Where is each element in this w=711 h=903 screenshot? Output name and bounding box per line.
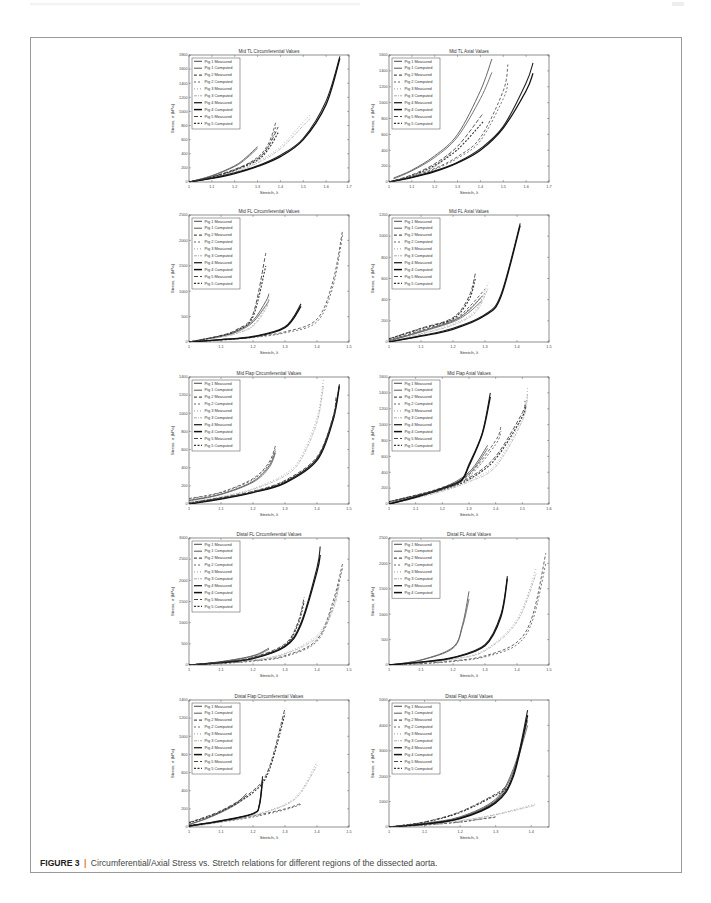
x-tick-label: 1.1: [218, 345, 223, 349]
chart-title: Distal FL Axial Values: [447, 532, 492, 537]
x-axis-label: Stretch, λ: [260, 673, 279, 678]
legend-label: Pig 2 Computed: [205, 562, 233, 567]
y-tick-label: 1000: [379, 234, 387, 238]
y-tick-label: 1500: [379, 587, 387, 591]
legend-label: Pig 4 Measured: [205, 583, 232, 588]
y-tick-label: 500: [381, 638, 387, 642]
x-tick-label: 1.3: [482, 345, 487, 349]
chart-title: Mid Flap Axial Values: [447, 371, 491, 376]
legend: Pig 1 MeasuredPig 1 ComputedPig 2 Measur…: [192, 703, 240, 774]
x-tick-label: 1: [388, 830, 390, 834]
legend-label: Pig 5 Computed: [205, 766, 233, 771]
chart-svg: Mid FL Circumferential Values11.11.21.31…: [157, 205, 357, 365]
y-tick-label: 1200: [179, 96, 187, 100]
legend-label: Pig 2 Measured: [405, 72, 432, 77]
x-tick-label: 1.5: [346, 668, 351, 672]
legend-label: Pig 1 Computed: [405, 65, 433, 70]
legend-label: Pig 2 Computed: [205, 401, 233, 406]
y-tick-label: 1000: [379, 613, 387, 617]
chart-mid-tl-circumferential: Mid TL Circumferential Values11.11.21.31…: [157, 45, 357, 205]
legend-label: Pig 1 Computed: [205, 548, 233, 553]
legend-label: Pig 2 Measured: [405, 555, 432, 560]
x-tick-label: 1.1: [218, 830, 223, 834]
y-tick-label: 1500: [179, 600, 187, 604]
y-tick-label: 400: [181, 152, 187, 156]
x-tick-label: 1.2: [232, 185, 237, 189]
chart-distal-flap-axial: Distal Flap Axial Values11.11.21.31.4010…: [357, 690, 557, 850]
legend-label: Pig 5 Measured: [205, 274, 232, 279]
chart-svg: Mid Flap Circumferential Values11.11.21.…: [157, 367, 357, 527]
x-tick-label: 1.2: [250, 668, 255, 672]
caption-text: Circumferential/Axial Stress vs. Stretch…: [91, 858, 438, 868]
legend-label: Pig 1 Measured: [205, 219, 232, 224]
x-tick-label: 1.6: [524, 185, 529, 189]
x-tick-label: 1.2: [250, 345, 255, 349]
y-axis-label: Stress, σ (kPa): [370, 748, 375, 778]
y-tick-label: 600: [381, 455, 387, 459]
legend-label: Pig 4 Computed: [205, 267, 233, 272]
y-tick-label: 200: [381, 486, 387, 490]
x-axis-label: Stretch, λ: [460, 512, 479, 517]
y-tick-label: 1400: [379, 69, 387, 73]
y-tick-label: 400: [381, 298, 387, 302]
legend-label: Pig 5 Measured: [405, 114, 432, 119]
y-axis-label: Stress, σ (kPa): [370, 425, 375, 455]
chart-title: Distal Flap Axial Values: [445, 694, 493, 699]
y-tick-label: 3000: [379, 749, 387, 753]
legend-label: Pig 1 Measured: [405, 704, 432, 709]
legend-label: Pig 4 Computed: [205, 590, 233, 595]
legend-label: Pig 2 Computed: [405, 79, 433, 84]
y-tick-label: 400: [381, 471, 387, 475]
y-tick-label: 2500: [379, 536, 387, 540]
chart-svg: Mid TL Circumferential Values11.11.21.31…: [157, 45, 357, 205]
x-tick-label: 1.6: [546, 507, 551, 511]
x-axis-label: Stretch, λ: [260, 835, 279, 840]
cropped-page-header: [30, 2, 360, 6]
x-tick-label: 1.6: [324, 185, 329, 189]
y-axis-label: Stress, σ (kPa): [170, 748, 175, 778]
legend-label: Pig 4 Computed: [205, 107, 233, 112]
x-tick-label: 1.1: [218, 507, 223, 511]
legend: Pig 1 MeasuredPig 1 ComputedPig 2 Measur…: [392, 58, 440, 129]
y-tick-label: 1600: [179, 67, 187, 71]
legend-label: Pig 4 Computed: [205, 429, 233, 434]
legend-label: Pig 2 Computed: [205, 79, 233, 84]
legend-label: Pig 1 Measured: [205, 704, 232, 709]
legend-label: Pig 4 Measured: [405, 422, 432, 427]
legend-label: Pig 4 Measured: [205, 422, 232, 427]
legend-label: Pig 2 Measured: [205, 232, 232, 237]
legend-label: Pig 1 Measured: [405, 219, 432, 224]
y-tick-label: 1200: [179, 716, 187, 720]
y-tick-label: 0: [385, 340, 387, 344]
legend-label: Pig 1 Measured: [205, 59, 232, 64]
legend-label: Pig 2 Computed: [405, 562, 433, 567]
y-tick-label: 800: [381, 439, 387, 443]
legend-label: Pig 4 Measured: [405, 100, 432, 105]
legend: Pig 1 MeasuredPig 1 ComputedPig 2 Measur…: [392, 541, 440, 598]
y-tick-label: 5000: [379, 698, 387, 702]
y-tick-label: 4000: [379, 724, 387, 728]
legend-label: Pig 2 Computed: [205, 724, 233, 729]
legend-label: Pig 4 Computed: [405, 752, 433, 757]
x-tick-label: 1.4: [314, 507, 319, 511]
chart-title: Mid Flap Circumferential Values: [237, 371, 302, 376]
chart-mid-fl-circumferential: Mid FL Circumferential Values11.11.21.31…: [157, 205, 357, 365]
y-tick-label: 1000: [179, 412, 187, 416]
x-tick-label: 1.5: [301, 185, 306, 189]
x-tick-label: 1.2: [250, 830, 255, 834]
y-tick-label: 1000: [379, 423, 387, 427]
legend-label: Pig 1 Measured: [405, 59, 432, 64]
legend-label: Pig 1 Measured: [405, 381, 432, 386]
y-tick-label: 800: [381, 117, 387, 121]
x-tick-label: 1.2: [457, 830, 462, 834]
legend-label: Pig 5 Computed: [205, 281, 233, 286]
legend-label: Pig 3 Measured: [205, 731, 232, 736]
chart-svg: Distal FL Axial Values11.11.21.31.41.505…: [357, 528, 557, 688]
caption-separator: |: [84, 858, 86, 868]
x-tick-label: 1.1: [409, 185, 414, 189]
y-axis-label: Stress, σ (kPa): [170, 425, 175, 455]
y-tick-label: 0: [185, 180, 187, 184]
legend-label: Pig 2 Measured: [205, 72, 232, 77]
x-tick-label: 1.5: [546, 668, 551, 672]
legend-label: Pig 2 Computed: [405, 724, 433, 729]
